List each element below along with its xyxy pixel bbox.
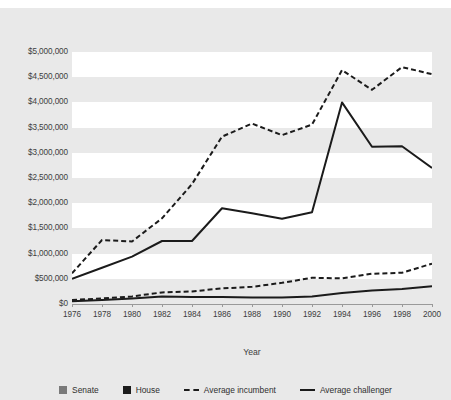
x-tick [432, 304, 433, 307]
legend-item[interactable]: House [123, 385, 160, 395]
x-tick [402, 304, 403, 307]
series-line [72, 67, 432, 273]
series-line [72, 102, 432, 278]
y-tick-label: $2,500,000 [2, 173, 68, 182]
legend-dashed-line-icon [184, 389, 199, 391]
legend-label: House [136, 385, 160, 395]
y-tick-label: $1,000,000 [2, 249, 68, 258]
y-tick-label: $3,500,000 [2, 123, 68, 132]
y-tick-label: $4,000,000 [2, 97, 68, 106]
x-tick-label: 2000 [414, 310, 450, 319]
legend-label: Senate [72, 385, 99, 395]
x-tick [72, 304, 73, 307]
x-tick [372, 304, 373, 307]
x-tick [252, 304, 253, 307]
legend-label: Average challenger [320, 385, 392, 395]
legend-item[interactable]: Average incumbent [184, 385, 276, 395]
chart-figure: $5,000,000$4,500,000$4,000,000$3,500,000… [0, 0, 451, 400]
series-lines [72, 52, 432, 304]
chart-legend: SenateHouseAverage incumbentAverage chal… [0, 381, 451, 399]
x-tick [132, 304, 133, 307]
x-axis-title: Year [72, 347, 432, 357]
y-tick-label: $0 [2, 299, 68, 308]
x-tick [222, 304, 223, 307]
x-tick [342, 304, 343, 307]
y-tick-label: $1,500,000 [2, 223, 68, 232]
series-line [72, 286, 432, 301]
y-tick-label: $500,000 [2, 274, 68, 283]
legend-solid-line-icon [300, 389, 315, 391]
legend-item[interactable]: Senate [59, 385, 99, 395]
x-tick [162, 304, 163, 307]
legend-item[interactable]: Average challenger [300, 385, 392, 395]
y-axis: $5,000,000$4,500,000$4,000,000$3,500,000… [0, 52, 68, 304]
legend-label: Average incumbent [204, 385, 276, 395]
y-tick-label: $4,500,000 [2, 72, 68, 81]
plot-area [72, 52, 432, 304]
legend-square-icon [123, 386, 131, 394]
series-line [72, 264, 432, 300]
y-tick-label: $2,000,000 [2, 198, 68, 207]
x-tick [312, 304, 313, 307]
y-tick-label: $5,000,000 [2, 47, 68, 56]
x-tick [282, 304, 283, 307]
legend-square-icon [59, 386, 67, 394]
x-tick [102, 304, 103, 307]
x-tick [192, 304, 193, 307]
y-tick-label: $3,000,000 [2, 148, 68, 157]
top-caption [0, 0, 451, 6]
chart-card: $5,000,000$4,500,000$4,000,000$3,500,000… [0, 8, 451, 400]
